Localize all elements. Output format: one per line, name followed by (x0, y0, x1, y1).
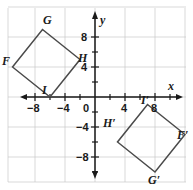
shape-fghi-prime (118, 105, 186, 173)
y-tick-label-neg8: −8 (76, 151, 89, 163)
y-axis (91, 11, 99, 179)
y-tick-label-8: 8 (81, 31, 87, 43)
vertex-label-g: G (43, 13, 52, 27)
vertex-label-f: F (1, 54, 10, 68)
x-tick-label-8: 8 (151, 102, 157, 114)
coordinate-plane-svg: −8 −4 0 4 8 8 4 −4 −8 x y F G H I F′ G′ … (0, 0, 193, 190)
y-tick-label-neg4: −4 (76, 121, 89, 133)
x-axis-arrow-right (176, 94, 183, 100)
coordinate-plane-figure: −8 −4 0 4 8 8 4 −4 −8 x y F G H I F′ G′ … (0, 0, 193, 190)
x-axis-label: x (167, 79, 174, 93)
x-tick-label-4: 4 (121, 102, 128, 114)
vertex-label-h: H (77, 51, 88, 65)
x-tick-label-neg8: −8 (27, 102, 40, 114)
y-axis-arrow-up (92, 11, 98, 19)
vertex-label-f-prime: F′ (176, 128, 188, 142)
y-axis-label: y (98, 13, 106, 27)
vertex-label-g-prime: G′ (148, 173, 160, 187)
x-tick-label-neg4: −4 (57, 102, 70, 114)
vertex-label-h-prime: H′ (102, 116, 116, 130)
origin-label: 0 (83, 102, 89, 114)
x-axis-arrow-left (20, 94, 27, 100)
vertex-label-i-prime: I′ (140, 93, 149, 107)
